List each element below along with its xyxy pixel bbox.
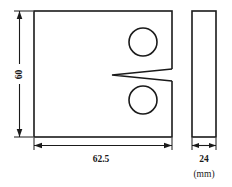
thickness-arrow-right <box>209 143 216 148</box>
unit-label: (mm) <box>193 169 214 180</box>
upper-hole <box>129 28 157 56</box>
notch-mask <box>112 69 174 81</box>
width-arrow-left <box>34 143 42 149</box>
drawing-canvas: 60 62.5 24 (mm) <box>0 0 232 187</box>
lower-hole <box>129 86 157 114</box>
width-dimension-label: 62.5 <box>93 154 110 164</box>
side-view-outline <box>192 11 216 137</box>
width-arrow-right <box>164 143 172 149</box>
height-dimension-label: 60 <box>14 70 24 80</box>
thickness-arrow-left <box>192 143 199 148</box>
thickness-dimension-label: 24 <box>199 154 209 164</box>
height-arrow-top <box>17 11 23 19</box>
height-arrow-bottom <box>17 129 23 137</box>
engineering-drawing: 60 62.5 24 (mm) <box>0 0 232 187</box>
